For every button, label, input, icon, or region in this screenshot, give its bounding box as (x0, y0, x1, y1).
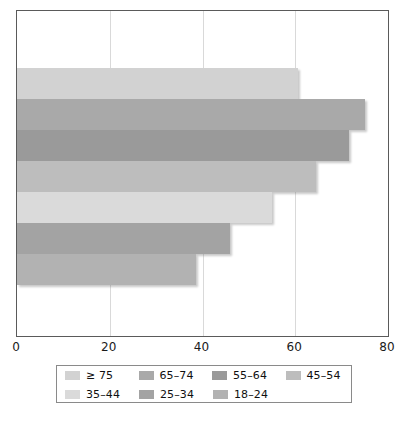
legend-item[interactable]: ≥ 75 (57, 369, 131, 382)
bar-row (17, 223, 388, 254)
x-tick-label-80: 80 (379, 340, 394, 354)
legend-item[interactable]: 65–74 (131, 369, 205, 382)
legend-label: 45–54 (307, 369, 341, 382)
legend-swatch-icon (139, 390, 154, 399)
legend-label: 35–44 (86, 388, 120, 401)
bar-row (17, 192, 388, 223)
legend-item[interactable]: 35–44 (57, 388, 131, 401)
legend-label: 55–64 (233, 369, 267, 382)
x-tick-label-20: 20 (101, 340, 116, 354)
legend-item[interactable]: 55–64 (204, 369, 278, 382)
bar-row (17, 254, 388, 285)
bar-4554[interactable] (17, 161, 316, 192)
legend-label: 18–24 (234, 388, 268, 401)
bar-chart: 020406080 ≥ 7565–7455–6445–5435–4425–341… (0, 0, 407, 425)
bar-2534[interactable] (17, 223, 230, 254)
x-tick-label-60: 60 (287, 340, 302, 354)
legend: ≥ 7565–7455–6445–5435–4425–3418–24 (56, 365, 352, 403)
x-tick-label-40: 40 (194, 340, 209, 354)
bars-group (17, 11, 388, 336)
bar-1824[interactable] (17, 254, 196, 285)
bar-3544[interactable] (17, 192, 272, 223)
legend-label: ≥ 75 (86, 369, 113, 382)
bar-75[interactable] (17, 68, 298, 99)
bar-6574[interactable] (17, 99, 365, 130)
legend-label: 65–74 (160, 369, 194, 382)
bar-row (17, 161, 388, 192)
legend-label: 25–34 (160, 388, 194, 401)
legend-item[interactable]: 25–34 (131, 388, 205, 401)
bar-5564[interactable] (17, 130, 349, 161)
legend-swatch-icon (65, 371, 80, 380)
x-tick-label-0: 0 (12, 340, 20, 354)
x-axis: 020406080 (16, 337, 389, 359)
bar-row (17, 99, 388, 130)
legend-item[interactable]: 45–54 (278, 369, 352, 382)
legend-swatch-icon (212, 371, 227, 380)
plot-area (16, 10, 389, 337)
bar-row (17, 68, 388, 99)
legend-row: ≥ 7565–7455–6445–54 (57, 366, 351, 385)
legend-item[interactable]: 18–24 (205, 388, 279, 401)
legend-row: 35–4425–3418–24 (57, 385, 351, 404)
legend-swatch-icon (65, 390, 80, 399)
legend-swatch-icon (286, 371, 301, 380)
bar-row (17, 130, 388, 161)
legend-swatch-icon (139, 371, 154, 380)
legend-swatch-icon (213, 390, 228, 399)
